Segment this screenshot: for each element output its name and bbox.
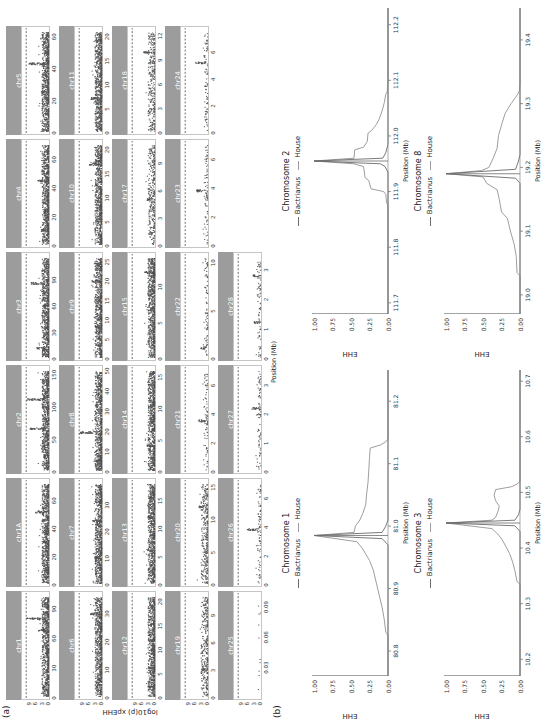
facet-strip-chr1A: chr1A <box>6 478 21 587</box>
ehh-y-axis-label: EHH <box>330 350 370 358</box>
facet-x-tick: 60 <box>51 492 57 510</box>
facet-x-tick: 10 <box>104 549 110 567</box>
legend-line-icon <box>298 579 299 588</box>
ehh-y-tick: 0.25 <box>498 680 505 704</box>
facet-x-tick: 10 <box>210 254 216 272</box>
ehh-title-chromosome-8: Chromosome 8 <box>414 0 423 362</box>
facet-strip-chr23: chr23 <box>165 139 180 248</box>
facet-x-tick: 20 <box>157 593 163 611</box>
legend-line-icon <box>430 217 431 226</box>
facet-x-tick: 0 <box>51 689 57 707</box>
facet-x-tick: 2 <box>263 291 269 309</box>
facet-strip-chr21: chr21 <box>165 365 180 474</box>
panel-a-y-tick: 0 <box>204 702 210 718</box>
ehh-legend: BactrianusHouse <box>294 0 302 362</box>
facet-x-tick: 40 <box>51 520 57 538</box>
facet-x-tick: 50 <box>51 431 57 449</box>
ehh-y-tick: 0.00 <box>385 318 392 342</box>
legend-item-house: House <box>294 136 302 170</box>
facet-strip-chr24: chr24 <box>165 26 180 135</box>
facet-strip-chr4: chr4 <box>6 139 21 248</box>
facet-plot-chr17 <box>127 139 156 248</box>
facet-x-tick: 5 <box>157 548 163 566</box>
facet-strip-chr19: chr19 <box>165 591 180 700</box>
ehh-y-tick: 0.75 <box>461 680 468 704</box>
facet-x-tick: 30 <box>51 324 57 342</box>
panel-a-y-tick: 6 <box>191 702 197 718</box>
figure-rotated-stage: (a) log10(p) xpEHH chr10306090chr1A02040… <box>0 0 556 724</box>
facet-x-tick: 0 <box>210 689 216 707</box>
facet-x-tick: 0 <box>263 463 269 481</box>
facet-x-tick: 6 <box>210 634 216 652</box>
facet-x-tick: 20 <box>51 92 57 110</box>
facet-plot-chr22 <box>180 252 209 361</box>
facet-x-tick: 15 <box>157 368 163 386</box>
ehh-y-tick: 1.00 <box>311 680 318 704</box>
ehh-y-tick: 0.25 <box>366 318 373 342</box>
facet-strip-chr12: chr12 <box>112 591 127 700</box>
facet-x-tick: 15 <box>104 292 110 310</box>
facet-x-tick: 9 <box>157 51 163 69</box>
facet-plot-chr1A <box>21 478 50 587</box>
facet-x-tick: 9 <box>157 154 163 172</box>
facet-strip-chr17: chr17 <box>112 139 127 248</box>
facet-x-tick: 60 <box>51 28 57 46</box>
facet-x-tick: 6 <box>210 43 216 61</box>
facet-x-tick: 30 <box>51 659 57 677</box>
facet-x-tick: 4 <box>263 518 269 536</box>
legend-item-bactrianus: Bactrianus <box>294 177 302 226</box>
facet-x-tick: 6 <box>210 150 216 168</box>
facet-x-tick: 10 <box>157 400 163 418</box>
panel-a-x-axis-label: Position (Mb) <box>270 24 278 700</box>
facet-strip-chr7: chr7 <box>59 478 74 587</box>
facet-x-tick: 0 <box>210 350 216 368</box>
facet-x-tick: 0 <box>104 463 110 481</box>
facet-x-tick: 90 <box>51 271 57 289</box>
facet-strip-chr28: chr28 <box>218 252 233 361</box>
facet-x-tick: 1 <box>263 434 269 452</box>
facet-plot-chr8 <box>74 365 103 474</box>
legend-line-icon <box>298 217 299 226</box>
facet-x-tick: 0 <box>210 576 216 594</box>
facet-x-tick: 0.03 <box>263 659 269 677</box>
facet-x-tick: 0 <box>104 124 110 142</box>
facet-x-tick: 90 <box>51 600 57 618</box>
ehh-y-axis-label: EHH <box>330 712 370 720</box>
ehh-x-axis-label: Position (Mb) <box>402 370 410 676</box>
facet-x-tick: 3 <box>210 661 216 679</box>
facet-plot-chr10 <box>74 139 103 248</box>
facet-x-tick: 30 <box>104 496 110 514</box>
panel-a-y-tick: 9 <box>132 702 138 718</box>
ehh-legend: BactrianusHouse <box>426 362 434 724</box>
facet-plot-chr5 <box>21 26 50 135</box>
panel-a-y-tick: 3 <box>251 702 257 718</box>
facet-x-tick: 3 <box>157 209 163 227</box>
facet-x-tick: 60 <box>51 297 57 315</box>
facet-strip-chr18: chr18 <box>112 26 127 135</box>
facet-strip-chr6: chr6 <box>59 591 74 700</box>
facet-x-tick: 0 <box>157 350 163 368</box>
facet-x-tick: 0 <box>104 237 110 255</box>
facet-plot-chr23 <box>180 139 209 248</box>
facet-plot-chr13 <box>127 478 156 587</box>
facet-x-tick: 0 <box>210 463 216 481</box>
facet-plot-chr15 <box>127 252 156 361</box>
legend-item-bactrianus: Bactrianus <box>294 539 302 588</box>
facet-x-tick: 2 <box>263 547 269 565</box>
facet-x-tick: 0 <box>210 237 216 255</box>
ehh-x-axis-label: Position (Mb) <box>534 8 542 314</box>
legend-line-icon <box>430 161 431 170</box>
facet-strip-chr11: chr11 <box>59 26 74 135</box>
facet-x-tick: 5 <box>104 213 110 231</box>
facet-x-tick: 4 <box>210 179 216 197</box>
panel-a-y-tick: 6 <box>85 702 91 718</box>
facet-x-tick: 5 <box>104 331 110 349</box>
panel-a-y-tick: 6 <box>32 702 38 718</box>
panel-a-label: (a) <box>1 705 11 718</box>
facet-x-tick: 3 <box>157 100 163 118</box>
ehh-y-tick: 0.50 <box>480 318 487 342</box>
panel-a-y-tick: 6 <box>244 702 250 718</box>
ehh-y-tick: 0.75 <box>329 680 336 704</box>
legend-line-icon <box>430 579 431 588</box>
facet-x-tick: 0 <box>104 350 110 368</box>
